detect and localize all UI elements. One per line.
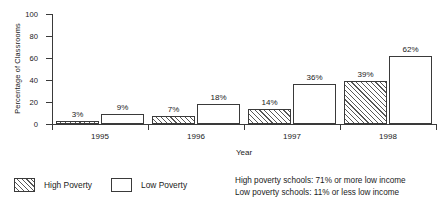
bar-value-label: 62% <box>402 45 418 54</box>
legend-swatch-hatched-icon <box>14 178 35 192</box>
bar-value-label: 18% <box>210 93 226 102</box>
x-axis-tick <box>340 124 341 130</box>
bar-1997-high-poverty <box>248 109 291 124</box>
bar-1998-high-poverty <box>344 81 387 124</box>
legend-swatch-white-icon <box>111 178 132 192</box>
y-axis-tick-label: 100 <box>2 10 46 19</box>
y-axis-tick-label: 80 <box>2 32 46 41</box>
bar-value-label: 36% <box>306 73 322 82</box>
bar-1995-high-poverty <box>56 121 99 124</box>
footnote-high-poverty: High poverty schools: 71% or more low in… <box>235 175 406 187</box>
bar-1996-low-poverty <box>197 104 240 124</box>
x-axis-category-label: 1995 <box>91 132 109 141</box>
x-axis-tick <box>148 124 149 130</box>
bar-value-label: 3% <box>72 110 84 119</box>
x-axis-tick <box>436 124 437 130</box>
x-axis-category-label: 1997 <box>283 132 301 141</box>
legend-label-low-poverty: Low Poverty <box>141 180 187 190</box>
y-axis-tick-label: 60 <box>2 54 46 63</box>
bar-value-label: 7% <box>168 105 180 114</box>
legend-label-high-poverty: High Poverty <box>44 180 92 190</box>
x-axis-tick <box>52 124 53 130</box>
bar-1998-low-poverty <box>389 56 432 124</box>
footnote-low-poverty: Low poverty schools: 11% or less low inc… <box>235 187 406 199</box>
bar-value-label: 9% <box>117 103 129 112</box>
y-axis-title: Percentage of Classrooms <box>13 4 22 134</box>
bar-chart-figure: Percentage of Classrooms 020406080100 3%… <box>0 0 445 206</box>
legend-entry-high-poverty: High Poverty <box>14 177 92 193</box>
bar-1995-low-poverty <box>101 114 144 124</box>
x-axis-title: Year <box>52 148 436 157</box>
chart-footnotes: High poverty schools: 71% or more low in… <box>235 175 406 198</box>
y-axis-tick-label: 0 <box>2 120 46 129</box>
bar-1996-high-poverty <box>152 116 195 124</box>
y-axis-tick-label: 40 <box>2 76 46 85</box>
plot-area: 3%9%7%18%14%36%39%62% <box>52 14 436 124</box>
x-axis-tick <box>244 124 245 130</box>
bar-value-label: 14% <box>261 98 277 107</box>
x-axis-category-label: 1998 <box>379 132 397 141</box>
bar-value-label: 39% <box>357 70 373 79</box>
bar-1997-low-poverty <box>293 84 336 124</box>
y-axis-tick-label: 20 <box>2 98 46 107</box>
x-axis-category-label: 1996 <box>187 132 205 141</box>
legend-entry-low-poverty: Low Poverty <box>111 177 187 193</box>
